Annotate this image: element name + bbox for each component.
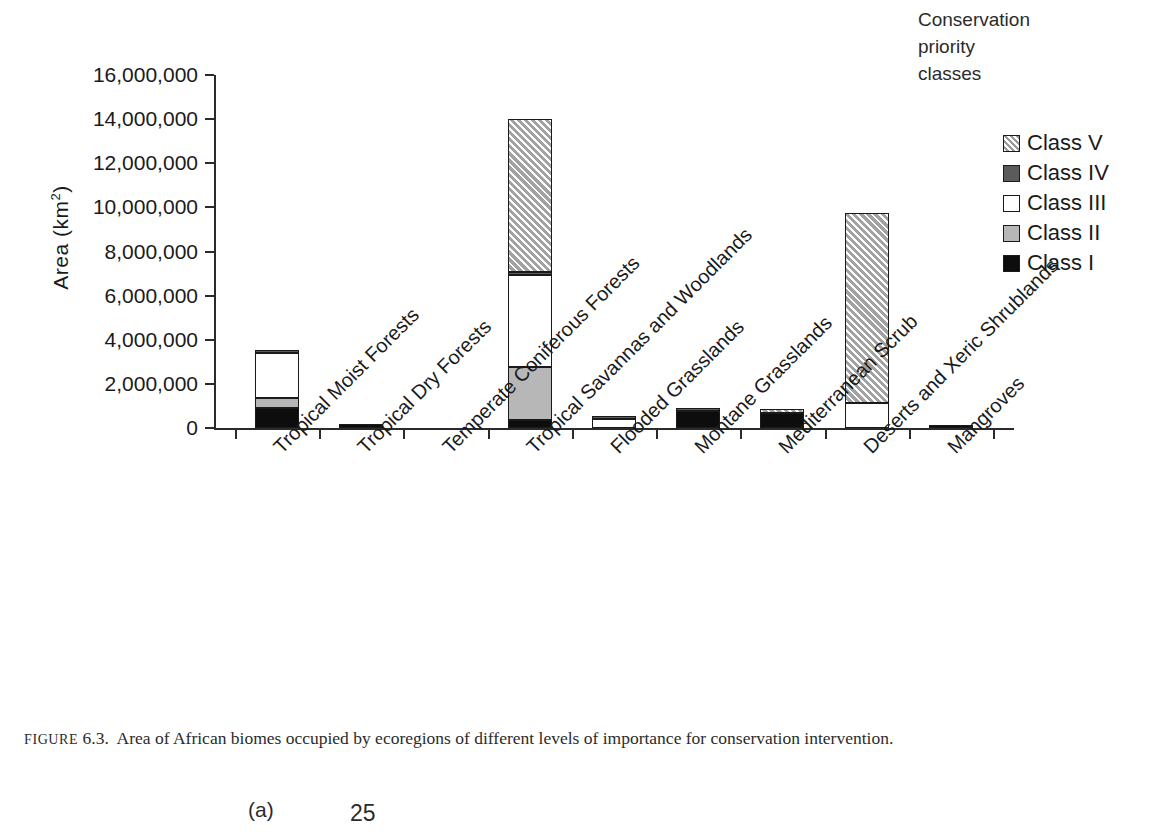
- x-axis-tick: [656, 430, 658, 439]
- x-axis-tick: [993, 430, 995, 439]
- x-axis-tick: [488, 430, 490, 439]
- y-axis-title-text: Area (km: [49, 201, 72, 290]
- y-axis-title: Area (km2): [48, 138, 73, 338]
- legend-item-class-ii[interactable]: Class II: [1003, 218, 1109, 248]
- caption-prefix: FIGURE: [24, 732, 78, 747]
- y-axis-tick-label: 2,000,000: [105, 372, 198, 396]
- x-axis-tick: [403, 430, 405, 439]
- caption-number: 6.3.: [83, 728, 109, 748]
- legend-item-class-iv[interactable]: Class IV: [1003, 158, 1109, 188]
- legend-label-class-iii: Class III: [1027, 190, 1106, 216]
- x-axis-tick: [740, 430, 742, 439]
- y-axis-tick: [205, 251, 214, 253]
- legend-item-class-v[interactable]: Class V: [1003, 128, 1109, 158]
- figure-container: Conservation priority classes Class V Cl…: [0, 0, 1150, 836]
- y-axis-tick: [205, 162, 214, 164]
- legend-label-class-iv: Class IV: [1027, 160, 1109, 186]
- y-axis-title-superscript: 2: [48, 193, 63, 201]
- y-axis-tick-label: 6,000,000: [105, 284, 198, 308]
- y-axis-tick: [205, 383, 214, 385]
- y-axis-tick: [205, 295, 214, 297]
- bar-segment-class-ii: [255, 398, 299, 408]
- next-figure-tick-number: 25: [350, 800, 376, 827]
- y-axis-title-close: ): [49, 185, 72, 193]
- bar-segment-class-v: [508, 119, 552, 272]
- y-axis-tick-label: 16,000,000: [93, 63, 198, 87]
- x-axis-tick: [909, 430, 911, 439]
- legend-label-class-ii: Class II: [1027, 220, 1100, 246]
- y-axis-tick-label: 8,000,000: [105, 240, 198, 264]
- bar-segment-class-iv: [255, 350, 299, 353]
- y-axis-tick-label: 10,000,000: [93, 195, 198, 219]
- figure-caption: FIGURE 6.3. Area of African biomes occup…: [24, 728, 1134, 749]
- x-axis-tick: [319, 430, 321, 439]
- y-axis-tick: [205, 118, 214, 120]
- legend: Class V Class IV Class III Class II Clas…: [1003, 128, 1109, 278]
- y-axis-tick: [205, 74, 214, 76]
- bar-1[interactable]: [255, 350, 299, 428]
- bar-segment-class-v: [760, 409, 804, 413]
- legend-title-line-2: priority: [918, 33, 1118, 60]
- y-axis-tick: [205, 427, 214, 429]
- y-axis-tick-label: 14,000,000: [93, 107, 198, 131]
- x-axis-tick: [825, 430, 827, 439]
- bar-segment-class-iii: [255, 353, 299, 398]
- y-axis-tick-label: 0: [186, 416, 198, 440]
- x-axis-tick: [235, 430, 237, 439]
- bar-segment-class-iv: [508, 272, 552, 275]
- next-figure-panel-label: (a): [248, 798, 274, 822]
- y-axis-tick: [205, 206, 214, 208]
- legend-item-class-iii[interactable]: Class III: [1003, 188, 1109, 218]
- y-axis-tick: [205, 339, 214, 341]
- legend-label-class-v: Class V: [1027, 130, 1103, 156]
- caption-text: Area of African biomes occupied by ecore…: [117, 728, 894, 748]
- legend-title-line-1: Conservation: [918, 6, 1118, 33]
- x-axis-tick: [572, 430, 574, 439]
- bar-segment-class-iv: [676, 408, 720, 411]
- y-axis-line: [214, 75, 216, 428]
- y-axis-tick-label: 12,000,000: [93, 151, 198, 175]
- y-axis-tick-label: 4,000,000: [105, 328, 198, 352]
